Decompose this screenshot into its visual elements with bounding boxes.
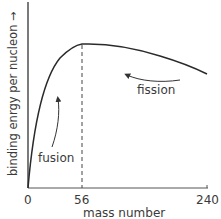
fusion-arrow-icon xyxy=(52,99,59,147)
x-tick-240: 240 xyxy=(196,193,219,207)
fusion-label: fusion xyxy=(38,151,74,165)
y-axis-label: binding enrgy per nucleon → xyxy=(6,11,20,176)
x-tick-0: 0 xyxy=(24,193,32,207)
x-axis-label: mass number xyxy=(83,206,165,219)
binding-energy-chart: fusion fission 0 56 240 mass number bind… xyxy=(0,0,221,219)
binding-energy-curve xyxy=(28,44,207,188)
fission-arrow-icon xyxy=(127,75,180,81)
fission-label: fission xyxy=(137,83,175,97)
x-tick-56: 56 xyxy=(74,193,89,207)
